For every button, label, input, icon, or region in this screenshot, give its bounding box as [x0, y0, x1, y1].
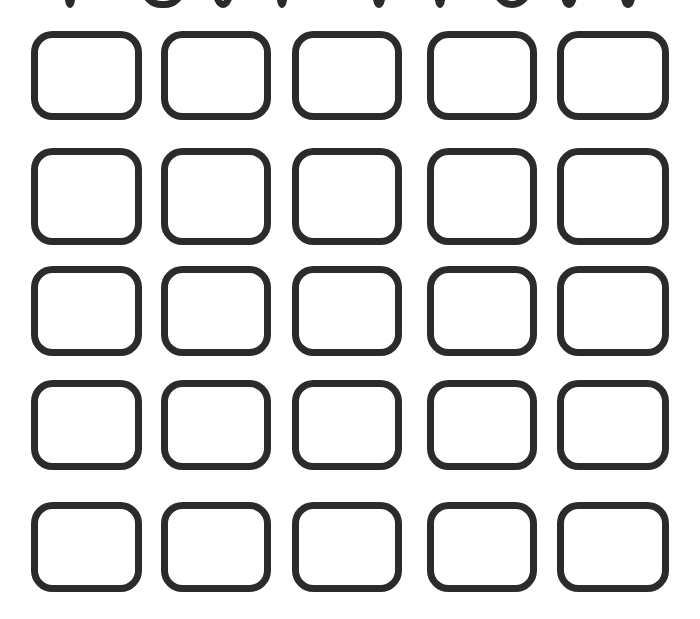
cell-r4-c1[interactable]	[35, 384, 139, 467]
grid-svg	[0, 0, 700, 619]
cell-r1-c1[interactable]	[35, 35, 139, 117]
fragment-2	[144, 0, 183, 5]
cell-r1-c2[interactable]	[165, 35, 268, 117]
cell-r5-c1[interactable]	[35, 506, 139, 589]
cell-r4-c2[interactable]	[165, 384, 268, 467]
cell-r2-c2[interactable]	[165, 152, 268, 242]
cell-r2-c1[interactable]	[35, 152, 139, 242]
cell-r1-c4[interactable]	[431, 35, 534, 117]
grid-canvas	[0, 0, 700, 619]
cell-r2-c4[interactable]	[431, 152, 534, 242]
fragment-3	[216, 0, 231, 5]
cell-r3-c2[interactable]	[165, 270, 268, 353]
cell-r4-c4[interactable]	[431, 384, 534, 467]
cell-r3-c4[interactable]	[431, 270, 534, 353]
cell-r1-c3[interactable]	[296, 35, 399, 117]
cell-r2-c5[interactable]	[561, 152, 666, 242]
fragment-7	[496, 0, 529, 5]
fragment-5	[376, 0, 383, 5]
cell-r5-c2[interactable]	[165, 506, 268, 589]
fragment-4	[280, 0, 285, 5]
cell-r3-c3[interactable]	[296, 270, 399, 353]
cell-r4-c3[interactable]	[296, 384, 399, 467]
fragment-1	[68, 0, 73, 5]
cell-r3-c1[interactable]	[35, 270, 139, 353]
cell-r5-c5[interactable]	[561, 506, 666, 589]
cell-r5-c4[interactable]	[431, 506, 534, 589]
cell-r4-c5[interactable]	[561, 384, 666, 467]
cell-r3-c5[interactable]	[561, 270, 666, 353]
fragment-9	[624, 0, 633, 5]
cell-r1-c5[interactable]	[561, 35, 666, 117]
fragment-8	[564, 0, 575, 5]
cell-r5-c3[interactable]	[296, 506, 399, 589]
grid-cells-group	[35, 35, 666, 589]
fragment-6	[438, 0, 443, 5]
cell-r2-c3[interactable]	[296, 152, 399, 242]
